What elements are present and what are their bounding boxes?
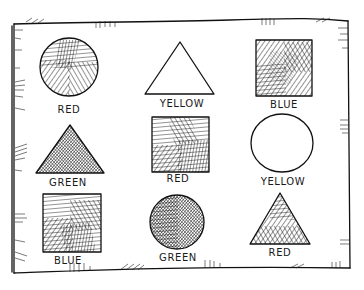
shape-red-square: RED (152, 117, 209, 184)
shape-blue-square: BLUE (43, 194, 101, 266)
label-blue: BLUE (54, 255, 82, 266)
shape-red-circle: RED (40, 38, 98, 115)
shape-yellow-triangle: YELLOW (145, 42, 214, 109)
label-red: RED (269, 247, 292, 258)
shape-green-circle: GREEN (148, 194, 208, 263)
shape-blue-square: BLUE (256, 40, 312, 110)
label-blue: BLUE (270, 99, 298, 110)
label-red: RED (58, 104, 81, 115)
shapes-sketch: RED YELLOW BLUE GREEN RED (0, 0, 364, 290)
label-green: GREEN (49, 177, 87, 188)
shape-green-triangle: GREEN (30, 120, 110, 188)
shape-yellow-circle: YELLOW (251, 114, 313, 187)
label-yellow: YELLOW (159, 98, 205, 109)
label-green: GREEN (159, 252, 197, 263)
shape-red-triangle: RED (248, 190, 312, 258)
label-yellow: YELLOW (260, 176, 306, 187)
label-red: RED (167, 173, 190, 184)
